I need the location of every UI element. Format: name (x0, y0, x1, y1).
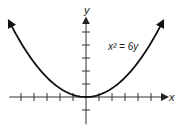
x-axis-label: x (168, 91, 175, 103)
y-axis-label: y (83, 4, 91, 16)
parabola-left-branch (9, 22, 86, 97)
parabola-chart: x y x² = 6y (0, 0, 183, 129)
equation-label: x² = 6y (107, 41, 139, 52)
parabola-right-branch (86, 22, 163, 97)
